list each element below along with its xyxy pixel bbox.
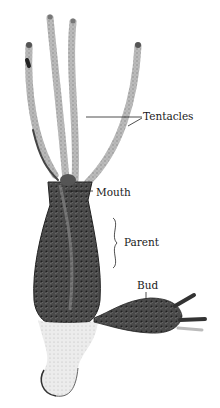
parent-brace <box>113 218 117 268</box>
label-parent: Parent <box>124 237 159 248</box>
tentacles-leader-2 <box>128 118 142 126</box>
parent-body <box>34 174 101 328</box>
label-bud: Bud <box>137 280 158 291</box>
foot <box>38 320 98 396</box>
hydra-illustration <box>0 0 220 408</box>
label-tentacles: Tentacles <box>143 111 194 122</box>
label-mouth: Mouth <box>96 187 131 198</box>
tentacles <box>26 15 141 183</box>
bud <box>94 295 205 333</box>
